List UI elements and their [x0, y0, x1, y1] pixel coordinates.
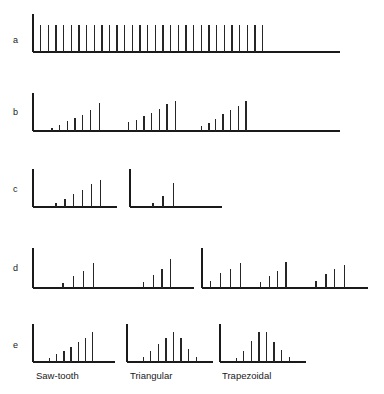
column-label-triangular: Triangular [130, 370, 172, 381]
column-label-saw-tooth: Saw-tooth [36, 370, 79, 381]
spectra-plot-svg [0, 0, 384, 394]
row-label-e: e [13, 340, 18, 350]
row-label-a: a [13, 35, 18, 45]
row-label-c: c [13, 184, 18, 194]
row-label-d: d [13, 263, 18, 273]
row-label-b: b [13, 107, 18, 117]
figure-panel: a b c d e Saw-tooth Triangular Trapezoid… [0, 0, 384, 394]
column-label-trapezoidal: Trapezoidal [222, 370, 271, 381]
